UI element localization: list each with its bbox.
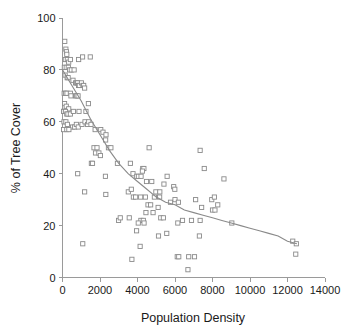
data-point: [129, 187, 133, 191]
chart-canvas: 020406080100 020004000600080001000012000…: [0, 0, 350, 333]
y-tick-label: 20: [43, 220, 55, 232]
data-point: [98, 153, 102, 157]
data-point: [134, 195, 138, 199]
data-point: [200, 205, 204, 209]
y-tick-label: 0: [49, 272, 55, 284]
x-tick-label: 6000: [163, 284, 187, 296]
data-point: [150, 179, 154, 183]
data-point: [144, 179, 148, 183]
axes-spines: [63, 18, 326, 278]
data-point: [103, 174, 107, 178]
data-point: [158, 190, 162, 194]
data-point: [76, 172, 80, 176]
data-point: [127, 216, 131, 220]
data-point: [212, 195, 216, 199]
x-tick-label: 14000: [310, 284, 341, 296]
x-tick-label: 2000: [88, 284, 112, 296]
data-point: [180, 218, 184, 222]
data-point: [161, 216, 165, 220]
x-tick-label: 8000: [200, 284, 224, 296]
data-point: [186, 268, 190, 272]
data-point: [138, 244, 142, 248]
data-point: [118, 216, 122, 220]
data-point: [187, 255, 191, 259]
data-point: [139, 195, 143, 199]
data-point: [151, 211, 155, 215]
data-point: [156, 234, 160, 238]
data-point: [202, 166, 206, 170]
data-point: [134, 229, 138, 233]
data-point: [83, 190, 87, 194]
y-tick-label: 100: [37, 12, 55, 24]
scatter-plot-figure: 020406080100 020004000600080001000012000…: [0, 0, 350, 333]
data-point: [72, 68, 76, 72]
data-point: [95, 146, 99, 150]
data-point: [104, 192, 108, 196]
data-point: [86, 102, 90, 106]
data-point: [197, 234, 201, 238]
data-point: [194, 198, 198, 202]
data-point: [144, 211, 148, 215]
data-point: [192, 255, 196, 259]
data-point: [143, 195, 147, 199]
data-point: [142, 221, 146, 225]
data-point: [88, 55, 92, 59]
data-point: [149, 203, 153, 207]
data-point: [67, 127, 71, 131]
data-point: [140, 169, 144, 173]
data-point: [139, 174, 143, 178]
data-point: [65, 52, 69, 56]
data-point: [173, 187, 177, 191]
data-point: [177, 255, 181, 259]
y-axis-title: % of Tree Cover: [9, 103, 23, 193]
data-point: [65, 122, 69, 126]
trend-line: [63, 70, 297, 244]
data-points-layer: [62, 39, 299, 272]
data-point: [68, 57, 72, 61]
data-point: [71, 109, 75, 113]
data-point: [176, 221, 180, 225]
data-point: [77, 109, 81, 113]
data-point: [198, 218, 202, 222]
data-point: [109, 146, 113, 150]
data-point: [63, 39, 67, 43]
data-point: [136, 221, 140, 225]
data-point: [176, 200, 180, 204]
x-tick-label: 12000: [272, 284, 303, 296]
data-point: [294, 252, 298, 256]
data-point: [90, 161, 94, 165]
data-point: [80, 55, 84, 59]
data-point: [162, 182, 166, 186]
data-point: [104, 133, 108, 137]
data-point: [128, 161, 132, 165]
data-point: [198, 148, 202, 152]
y-tick-label: 60: [43, 116, 55, 128]
data-point: [222, 177, 226, 181]
data-point: [189, 218, 193, 222]
x-tick-label: 10000: [235, 284, 266, 296]
data-point: [213, 208, 217, 212]
y-axis-ticks: 020406080100: [37, 12, 62, 284]
data-point: [81, 242, 85, 246]
data-point: [83, 86, 87, 90]
y-tick-label: 40: [43, 168, 55, 180]
y-tick-label: 80: [43, 64, 55, 76]
data-point: [69, 94, 73, 98]
data-point: [130, 257, 134, 261]
x-tick-label: 4000: [125, 284, 149, 296]
data-point: [156, 205, 160, 209]
data-point: [165, 231, 169, 235]
x-axis-ticks: 02000400060008000100001200014000: [59, 278, 340, 296]
x-tick-label: 0: [59, 284, 65, 296]
data-point: [165, 174, 169, 178]
data-point: [216, 203, 220, 207]
x-axis-title: Population Density: [141, 311, 246, 325]
data-point: [147, 146, 151, 150]
